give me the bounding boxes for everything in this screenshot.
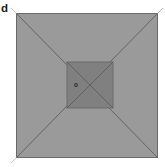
diagonal-extension-bottom-left: [11, 158, 17, 164]
panel-label: d: [1, 3, 8, 15]
geometric-figure-panel: d o: [0, 0, 165, 167]
diagonal-extension-top-left: [11, 8, 17, 14]
figure-canvas: [0, 0, 165, 167]
diagonal-extension-top-right: [158, 8, 164, 14]
center-point-label: o: [74, 82, 78, 89]
